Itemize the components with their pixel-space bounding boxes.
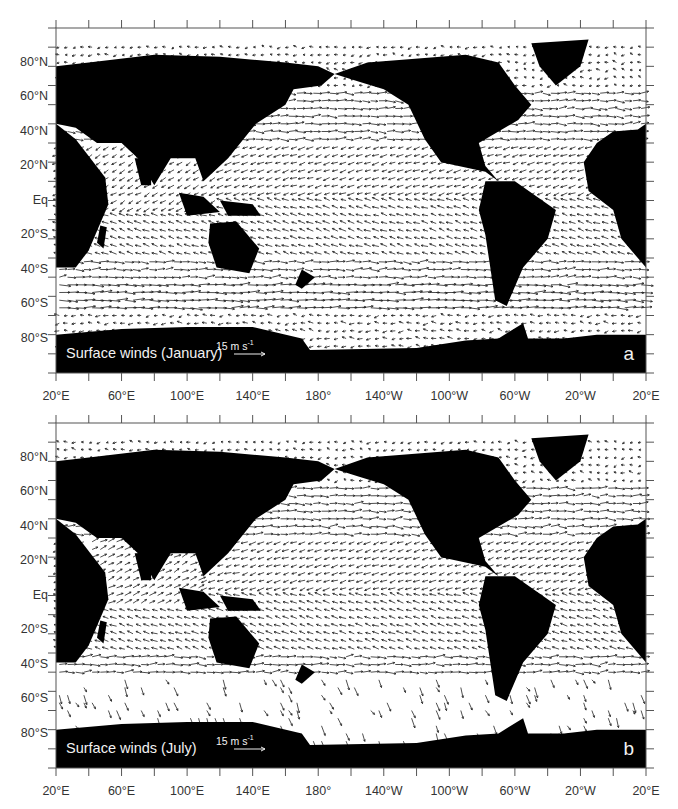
- lon-label: 140°E: [223, 389, 283, 403]
- lat-label: 20°N: [4, 553, 48, 567]
- panel-july: Surface winds (July) 15 m s-1 b: [56, 423, 646, 768]
- lat-label: 20°N: [4, 158, 48, 172]
- lon-label: 60°E: [92, 389, 152, 403]
- lat-label: 40°N: [4, 519, 48, 533]
- panel-letter: a: [623, 343, 634, 365]
- lon-label: 180°: [288, 389, 348, 403]
- lat-label: 40°N: [4, 124, 48, 138]
- lat-label: 20°S: [4, 622, 48, 636]
- lon-label: 140°W: [354, 784, 414, 798]
- lon-label: 140°W: [354, 389, 414, 403]
- lat-label: 80°N: [4, 450, 48, 464]
- lat-label: 80°N: [4, 55, 48, 69]
- lat-label: 20°S: [4, 227, 48, 241]
- lat-label: 80°S: [4, 726, 48, 740]
- lat-label: 40°S: [4, 657, 48, 671]
- lon-label: 20°W: [550, 389, 610, 403]
- scale-label: 15 m s-1: [216, 339, 254, 352]
- lon-label: 20°W: [550, 784, 610, 798]
- lon-label: 60°E: [92, 784, 152, 798]
- wind-map-january: [56, 28, 646, 373]
- lon-label: 100°W: [419, 389, 479, 403]
- lon-label: 60°W: [485, 389, 545, 403]
- lat-label: 40°S: [4, 262, 48, 276]
- lon-label: 100°W: [419, 784, 479, 798]
- panel-title: Surface winds (July): [66, 740, 197, 756]
- lat-label: 60°N: [4, 484, 48, 498]
- lon-label: 140°E: [223, 784, 283, 798]
- lon-label: 20°E: [26, 389, 86, 403]
- map-content: [48, 415, 654, 776]
- lon-label: 100°E: [157, 389, 217, 403]
- lat-label: 80°S: [4, 331, 48, 345]
- lon-label: 60°W: [485, 784, 545, 798]
- panel-january: Surface winds (January) 15 m s-1 a: [56, 28, 646, 373]
- lat-label: 60°S: [4, 296, 48, 310]
- lon-label: 180°: [288, 784, 348, 798]
- panel-letter: b: [623, 738, 634, 760]
- lon-label: 20°E: [616, 784, 676, 798]
- lon-label: 20°E: [26, 784, 86, 798]
- lat-label: 60°S: [4, 691, 48, 705]
- lat-label: Eq: [4, 588, 48, 602]
- map-content: [48, 20, 654, 381]
- panel-title: Surface winds (January): [66, 345, 222, 361]
- lat-label: Eq: [4, 193, 48, 207]
- lon-label: 20°E: [616, 389, 676, 403]
- wind-map-july: [56, 423, 646, 768]
- lat-label: 60°N: [4, 89, 48, 103]
- scale-label: 15 m s-1: [216, 734, 254, 747]
- lon-label: 100°E: [157, 784, 217, 798]
